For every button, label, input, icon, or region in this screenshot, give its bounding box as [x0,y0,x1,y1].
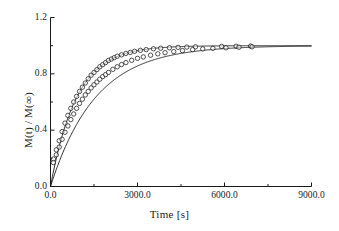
data-point [185,45,189,49]
y-axis-title: M(t) / M(∞) [22,92,34,148]
x-tick-label: 9000.0 [282,190,339,200]
data-point [106,70,110,74]
data-point [159,46,163,50]
data-point [119,62,123,66]
data-point [176,45,180,49]
data-point [74,106,78,110]
chart-figure: 0.00.40.81.2 0.03000.06000.09000.0 Time … [0,0,339,231]
data-point [69,106,73,110]
data-point [156,52,160,56]
data-point [80,85,84,89]
data-point [132,49,136,53]
data-point [135,56,139,60]
axis-lines [51,18,312,187]
data-point [63,130,67,134]
data-point [151,47,155,51]
data-point [190,47,194,51]
data-point [148,53,152,57]
data-point [124,60,128,64]
data-point [77,101,81,105]
data-point [237,45,241,49]
data-point [124,51,128,55]
data-point [224,46,228,50]
y-tick-label: 1.2 [14,12,47,22]
data-point [211,46,215,50]
series-2 [51,45,312,187]
data-point [201,47,205,51]
fit-line [51,46,312,186]
data-point [51,160,55,164]
data-point [72,112,76,116]
data-point [167,46,171,50]
x-tick-label: 3000.0 [108,190,168,200]
data-point [57,145,61,149]
y-tick-label: 0.8 [14,68,47,78]
fit-line [51,46,312,187]
data-point [163,51,167,55]
data-point [80,97,84,101]
data-point [60,137,64,141]
data-point [138,48,142,52]
data-point [115,65,119,69]
data-point [111,67,115,71]
data-point [66,124,70,128]
x-tick-label: 0.0 [21,190,81,200]
x-tick-label: 6000.0 [195,190,255,200]
data-point [115,54,119,58]
data-point [54,153,58,157]
data-point [66,113,70,117]
data-point [83,81,87,85]
data-point [130,58,134,62]
data-point [119,53,123,57]
data-point [144,47,148,51]
data-point [180,48,184,52]
data-point [219,44,223,48]
data-markers [51,45,254,165]
series-1 [51,44,312,187]
data-point [74,94,78,98]
data-point [172,49,176,53]
x-tick-marks [51,183,312,187]
data-point [69,117,73,121]
data-series-layer [51,44,312,187]
data-point [77,89,81,93]
x-axis-title: Time [s] [0,208,339,220]
data-point [250,45,254,49]
data-point [72,100,76,104]
data-point [141,55,145,59]
data-point [128,50,132,54]
